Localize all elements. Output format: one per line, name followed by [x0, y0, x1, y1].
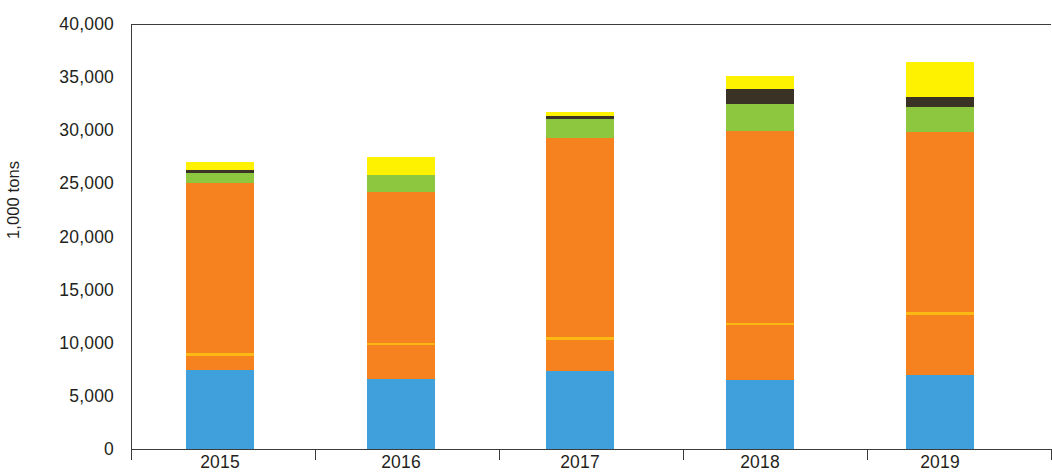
- y-axis-tick-label: 15,000: [59, 279, 114, 300]
- y-axis-tick-label: 35,000: [59, 67, 114, 88]
- x-axis-tick-label: 2018: [740, 452, 780, 473]
- stacked-bar-chart: 1,000 tons 05,00010,00015,00020,00025,00…: [0, 0, 1052, 473]
- y-axis-tick-label: 5,000: [69, 385, 114, 406]
- x-axis-tick-label: 2019: [920, 452, 960, 473]
- y-axis-tick-label: 10,000: [59, 332, 114, 353]
- y-axis-tick-labels: 05,00010,00015,00020,00025,00030,00035,0…: [0, 0, 122, 473]
- plot-frame: [131, 24, 1051, 450]
- x-axis-tick-label: 2016: [381, 452, 421, 473]
- y-axis-tick-label: 40,000: [59, 14, 114, 35]
- y-axis-tick-label: 25,000: [59, 173, 114, 194]
- y-axis-tick-label: 30,000: [59, 120, 114, 141]
- y-axis-tick-label: 0: [104, 439, 114, 460]
- y-axis-tick-label: 20,000: [59, 226, 114, 247]
- x-axis-tick-label: 2015: [200, 452, 240, 473]
- x-axis-tick-label: 2017: [560, 452, 600, 473]
- x-axis-tick-labels: 20152016201720182019: [131, 452, 1051, 473]
